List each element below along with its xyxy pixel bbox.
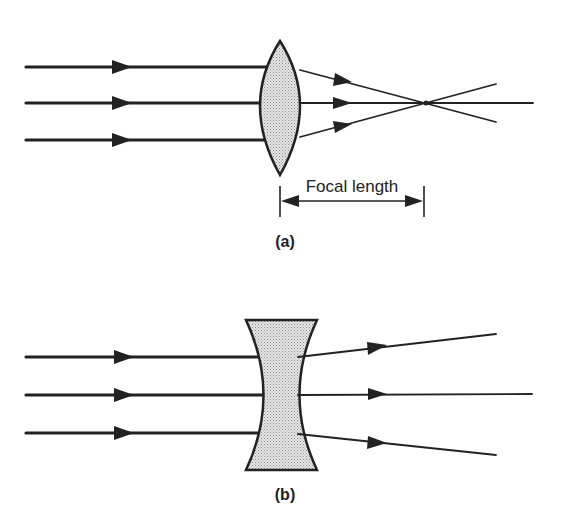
panel-a-converging-lens: Focal length (a) (26, 41, 533, 250)
arrowheads-incoming-a (112, 60, 132, 147)
incoming-rays-b (26, 357, 282, 433)
arrowheads-refracted-a (333, 73, 352, 133)
incoming-rays-a (26, 67, 278, 140)
caption-a: (a) (275, 233, 295, 250)
caption-b: (b) (275, 486, 295, 503)
lens-diagram: Focal length (a) (b) (0, 0, 577, 530)
focal-length-label: Focal length (306, 177, 399, 196)
refracted-rays-b (298, 334, 532, 455)
convex-lens (260, 41, 300, 175)
arrowheads-incoming-b (114, 350, 134, 440)
panel-b-diverging-lens: (b) (26, 320, 532, 503)
focal-point (424, 101, 429, 106)
